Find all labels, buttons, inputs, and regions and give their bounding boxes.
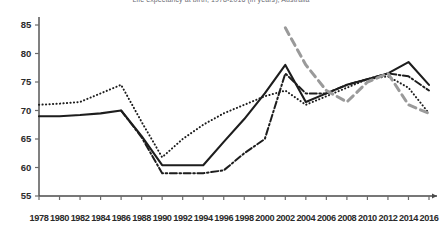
chart-plot-area bbox=[0, 0, 442, 237]
chart-series-line bbox=[121, 73, 429, 173]
y-axis-label: 80 bbox=[7, 48, 31, 59]
chart-series-line bbox=[39, 62, 429, 165]
chart-series-line bbox=[39, 76, 429, 157]
y-axis-label: 85 bbox=[7, 19, 31, 30]
y-axis-label: 60 bbox=[7, 162, 31, 173]
x-axis-label: 2016 bbox=[416, 213, 442, 223]
y-axis-label: 70 bbox=[7, 105, 31, 116]
y-axis-label: 75 bbox=[7, 76, 31, 87]
y-axis-label: 55 bbox=[7, 190, 31, 201]
y-axis-label: 65 bbox=[7, 133, 31, 144]
line-chart: Life expectancy at birth, 1978-2016 (in … bbox=[0, 0, 442, 237]
